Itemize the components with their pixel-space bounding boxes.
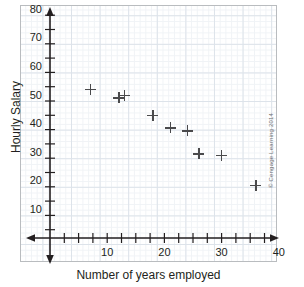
y-tick-label: 10 <box>20 204 42 215</box>
y-tick-label: 70 <box>20 32 42 43</box>
data-point <box>165 122 176 133</box>
copyright-credit: © Cengage Learning 2014 <box>268 113 274 188</box>
scatter-plot-figure: 102030405060708010203040 Hourly Salary N… <box>0 0 304 287</box>
data-point <box>119 90 130 101</box>
x-tick-label: 20 <box>152 247 176 258</box>
x-tick-label: 40 <box>267 247 291 258</box>
data-point <box>216 150 227 161</box>
x-tick-label: 30 <box>210 247 234 258</box>
data-point <box>85 84 96 95</box>
x-tick-label: 10 <box>95 247 119 258</box>
plot-area <box>20 5 277 262</box>
y-tick-label: 20 <box>20 175 42 186</box>
data-point <box>147 110 158 121</box>
y-tick-label: 80 <box>20 4 42 15</box>
data-point <box>193 148 204 159</box>
x-axis-title: Number of years employed <box>20 268 277 282</box>
y-tick-label: 30 <box>20 147 42 158</box>
y-tick-label: 40 <box>20 118 42 129</box>
data-point <box>182 125 193 136</box>
y-tick-label: 60 <box>20 61 42 72</box>
y-axis-title: Hourly Salary <box>9 57 23 177</box>
data-point <box>250 180 261 191</box>
y-tick-label: 50 <box>20 90 42 101</box>
